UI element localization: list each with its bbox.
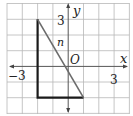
y-axis-label: y <box>72 3 81 18</box>
tick-label-x-neg-3: −3 <box>8 69 26 83</box>
origin-label: O <box>70 53 80 67</box>
diagram-canvas: y x O n 3 −3 3 <box>0 0 133 116</box>
coordinate-diagram: y x O n 3 −3 3 <box>0 0 133 116</box>
tick-label-x-3: 3 <box>110 73 118 87</box>
tick-label-y-3: 3 <box>57 14 65 28</box>
y-axis-down-arrow-icon <box>66 108 70 113</box>
line-n-label: n <box>57 36 64 49</box>
x-axis-label: x <box>120 51 128 66</box>
x-axis-left-arrow-icon <box>9 64 14 68</box>
